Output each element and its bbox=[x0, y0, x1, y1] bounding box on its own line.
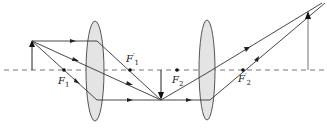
ray-arrow-icon bbox=[127, 98, 133, 102]
focal-point-F1 bbox=[62, 68, 66, 72]
ray-arrow-icon bbox=[74, 78, 80, 84]
label-F2-prime: F′2 bbox=[238, 74, 251, 87]
ray-arrow-icon bbox=[72, 57, 79, 61]
ray-arrow-icon bbox=[254, 56, 259, 62]
focal-point-F2 bbox=[175, 68, 179, 72]
lens-1 bbox=[86, 21, 104, 121]
ray-arrow-icon bbox=[186, 98, 192, 102]
ray-arrow-icon bbox=[126, 81, 133, 85]
focal-point-F1-prime bbox=[128, 68, 132, 72]
label-F1: F1 bbox=[58, 76, 69, 89]
ray-out-lens2-center bbox=[207, 3, 322, 73]
ray-arrow-icon bbox=[70, 39, 76, 43]
label-F1-prime: F′1 bbox=[126, 54, 139, 67]
label-F2: F2 bbox=[172, 75, 183, 88]
ray-diagram bbox=[0, 0, 327, 130]
